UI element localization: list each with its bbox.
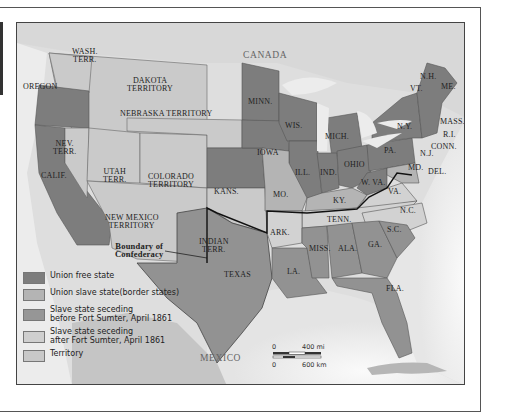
label-dakota: DAKOTA TERRITORY: [127, 77, 173, 93]
label-utah: UTAH TERR.: [103, 168, 126, 184]
confederacy-boundary-annotation: Boundary of Confederacy: [115, 242, 163, 258]
label-mo: MO.: [273, 191, 289, 199]
label-oregon: OREGON: [23, 83, 58, 91]
legend-swatch: [23, 350, 45, 362]
map-legend: Union free state Union slave state(borde…: [23, 271, 179, 366]
label-tenn: TENN.: [327, 216, 351, 224]
legend-label: Union free state: [50, 271, 114, 280]
label-nc: N.C.: [400, 207, 416, 215]
legend-item-seceding-before: Slave state seceding before Fort Sumter,…: [23, 305, 179, 323]
legend-item-union-free: Union free state: [23, 271, 179, 284]
label-ky: KY.: [333, 197, 346, 205]
label-conn: CONN.: [431, 143, 457, 151]
label-ohio: OHIO: [344, 161, 365, 169]
label-nh: N.H.: [420, 73, 436, 81]
label-mass: MASS.: [440, 118, 465, 126]
label-wis: WIS.: [285, 122, 302, 130]
label-ga: GA.: [368, 241, 382, 249]
scale-km-label: 600 km: [302, 361, 327, 369]
label-iowa: IOWA: [257, 149, 279, 157]
label-nev: NEV. TERR.: [53, 140, 76, 156]
label-fla: FLA.: [386, 285, 404, 293]
legend-label: Union slave state(border states): [50, 288, 179, 297]
label-nebraska: NEBRASKA TERRITORY: [120, 110, 212, 118]
legend-item-territory: Territory: [23, 349, 179, 362]
label-wash: WASH. TERR.: [72, 48, 98, 64]
label-va: VA.: [388, 188, 401, 196]
label-wva: W. VA.: [361, 179, 385, 187]
label-la: LA.: [287, 268, 300, 276]
legend-label: Slave state seceding before Fort Sumter,…: [50, 305, 172, 323]
label-ala: ALA.: [338, 245, 357, 253]
legend-item-seceding-after: Slave state seceding after Fort Sumter, …: [23, 327, 179, 345]
label-ind: IND.: [320, 169, 337, 177]
label-pa: PA.: [384, 147, 396, 155]
label-mexico: MEXICO: [200, 354, 241, 362]
scale-km-zero: 0: [272, 361, 276, 369]
label-sc: S.C.: [387, 226, 402, 234]
label-texas: TEXAS: [224, 271, 251, 279]
legend-swatch: [23, 289, 45, 301]
label-del: DEL.: [428, 168, 446, 176]
outer-frame-bottom: [0, 411, 481, 412]
legend-item-union-slave: Union slave state(border states): [23, 288, 179, 301]
scale-mi-label: 400 mi: [302, 343, 325, 351]
label-ny: N.Y.: [397, 123, 412, 131]
label-ill: ILL.: [295, 169, 310, 177]
legend-label: Territory: [50, 349, 83, 358]
label-nj: N.J.: [420, 150, 434, 158]
label-canada: CANADA: [243, 51, 287, 59]
label-vt: VT.: [410, 85, 423, 93]
legend-label: Slave state seceding after Fort Sumter, …: [50, 327, 165, 345]
label-kans: KANS.: [214, 188, 239, 196]
label-indian: INDIAN TERR.: [199, 238, 229, 254]
label-miss: MISS.: [309, 245, 331, 253]
legend-swatch: [23, 272, 45, 284]
label-colorado: COLORADO TERRITORY: [148, 173, 194, 189]
label-mich: MICH.: [325, 133, 349, 141]
left-edge-bar: [0, 22, 3, 95]
label-newmexico: NEW MEXICO TERRITORY: [105, 214, 159, 230]
label-ark: ARK.: [270, 229, 290, 237]
scale-mi-zero: 0: [272, 343, 276, 351]
label-ri: R.I.: [443, 131, 456, 139]
outer-frame-right: [480, 7, 481, 412]
label-calif: CALIF.: [41, 172, 67, 180]
civil-war-map: CANADA MEXICO WASH. TERR. OREGON CALIF. …: [16, 22, 465, 385]
label-md: MD.: [408, 164, 424, 172]
label-me: ME.: [441, 83, 456, 91]
legend-swatch: [23, 331, 45, 343]
outer-frame-top: [0, 7, 481, 8]
legend-swatch: [23, 309, 45, 321]
label-minn: MINN.: [248, 98, 272, 106]
